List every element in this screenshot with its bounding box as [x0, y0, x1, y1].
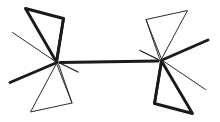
central-carbon-carbon-bond-group — [60, 61, 158, 63]
molecular-structure-figure — [0, 0, 220, 122]
central-carbon-carbon-bond — [60, 61, 158, 63]
structure-canvas — [0, 0, 220, 122]
